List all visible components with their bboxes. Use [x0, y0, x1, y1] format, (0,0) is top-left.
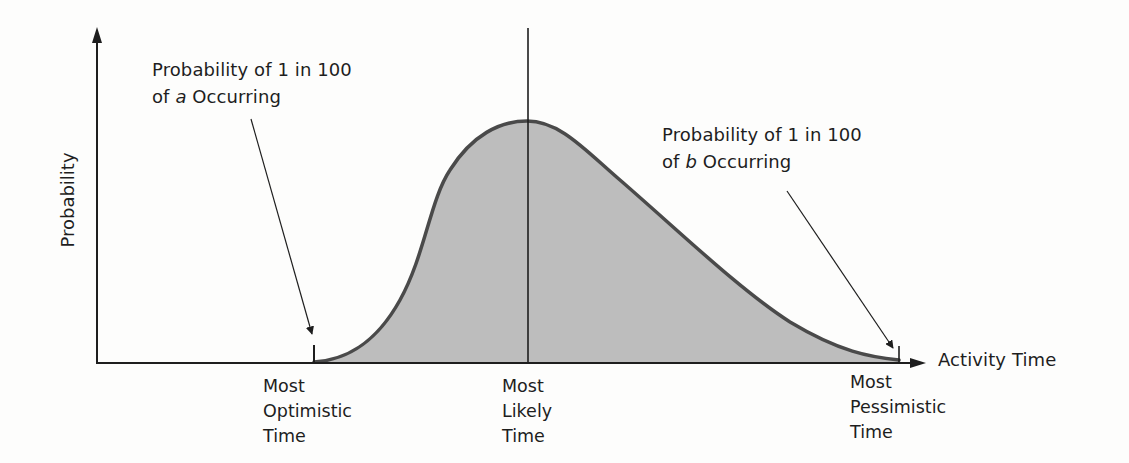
annotation-b-suffix: Occurring [697, 151, 791, 172]
x-axis-label: Activity Time [938, 348, 1056, 371]
marker-pessimistic-line2: Pessimistic [850, 395, 946, 420]
annotation-b-prefix: of [662, 151, 685, 172]
marker-likely-line2: Likely [502, 399, 552, 424]
annotation-b-arrow [787, 191, 893, 348]
annotation-a-variable: a [175, 86, 186, 107]
annotation-a: Probability of 1 in 100 of a Occurring [152, 56, 352, 110]
marker-optimistic-line2: Optimistic [263, 399, 352, 424]
marker-likely-label: Most Likely Time [502, 374, 552, 449]
marker-likely-line1: Most [502, 374, 552, 399]
marker-likely-line3: Time [502, 424, 552, 449]
annotation-b: Probability of 1 in 100 of b Occurring [662, 121, 862, 175]
y-axis-arrow-icon [92, 27, 102, 43]
x-axis-arrow-icon [910, 358, 926, 368]
annotation-b-line2: of b Occurring [662, 148, 862, 175]
marker-pessimistic-line3: Time [850, 420, 946, 445]
annotation-b-variable: b [685, 151, 697, 172]
marker-pessimistic-line1: Most [850, 370, 946, 395]
annotation-a-line1: Probability of 1 in 100 [152, 56, 352, 83]
annotation-b-line1: Probability of 1 in 100 [662, 121, 862, 148]
annotation-a-prefix: of [152, 86, 175, 107]
marker-optimistic-label: Most Optimistic Time [263, 374, 352, 449]
annotation-a-line2: of a Occurring [152, 83, 352, 110]
annotation-a-arrow [251, 119, 312, 334]
marker-optimistic-line1: Most [263, 374, 352, 399]
y-axis-label: Probability [57, 152, 78, 247]
marker-optimistic-line3: Time [263, 424, 352, 449]
annotation-a-suffix: Occurring [187, 86, 281, 107]
marker-pessimistic-label: Most Pessimistic Time [850, 370, 946, 445]
